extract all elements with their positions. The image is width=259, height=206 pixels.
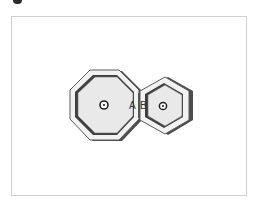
label-b: B xyxy=(140,100,147,111)
center-point-icon xyxy=(100,101,108,109)
center-point-icon xyxy=(159,102,166,109)
label-a: A xyxy=(129,100,136,111)
gear-diagram: A B xyxy=(0,0,259,206)
